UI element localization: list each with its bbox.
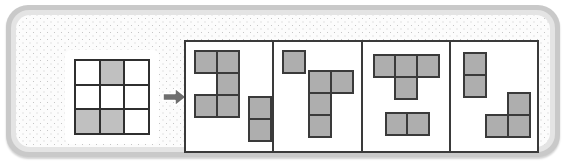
- option-panel-c[interactable]: [363, 42, 451, 151]
- piece-cell: [416, 54, 440, 78]
- piece-cell: [248, 118, 272, 142]
- piece-cell: [308, 70, 332, 94]
- piece-cell: [463, 74, 487, 98]
- source-grid-cell-1-0: [76, 86, 99, 109]
- source-grid: [74, 59, 150, 135]
- source-grid-cell-1-2: [125, 86, 148, 109]
- piece-cell: [485, 114, 509, 138]
- source-grid-card: [65, 50, 159, 144]
- outer-frame: [6, 5, 560, 157]
- puzzle-screenshot: [0, 0, 566, 163]
- piece-cell: [394, 76, 418, 100]
- piece-cell: [373, 54, 397, 78]
- piece-cell: [394, 54, 418, 78]
- piece-cell: [507, 92, 531, 116]
- stippled-field: [16, 15, 550, 147]
- options-container: [184, 40, 539, 153]
- source-grid-cell-0-0: [76, 61, 99, 84]
- piece-cell: [385, 112, 409, 136]
- source-grid-cell-0-1: [101, 61, 124, 84]
- piece-cell: [308, 92, 332, 116]
- piece-cell: [216, 72, 240, 96]
- source-grid-cell-2-1: [101, 110, 124, 133]
- piece-cell: [248, 96, 272, 120]
- source-grid-cell-1-1: [101, 86, 124, 109]
- option-panel-d[interactable]: [451, 42, 537, 151]
- piece-cell: [330, 70, 354, 94]
- source-grid-cell-2-2: [125, 110, 148, 133]
- source-grid-cell-2-0: [76, 110, 99, 133]
- piece-cell: [194, 94, 218, 118]
- option-panel-b[interactable]: [274, 42, 362, 151]
- piece-cell: [216, 94, 240, 118]
- piece-cell: [282, 50, 306, 74]
- frame-inner-border: [11, 10, 555, 152]
- piece-cell: [463, 52, 487, 76]
- option-panel-a[interactable]: [186, 42, 274, 151]
- piece-cell: [406, 112, 430, 136]
- piece-cell: [216, 50, 240, 74]
- piece-cell: [194, 50, 218, 74]
- piece-cell: [507, 114, 531, 138]
- piece-cell: [308, 114, 332, 138]
- source-grid-cell-0-2: [125, 61, 148, 84]
